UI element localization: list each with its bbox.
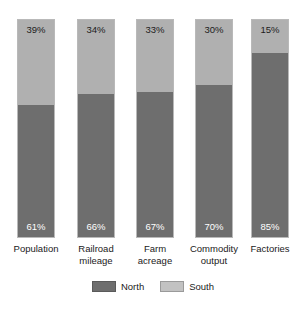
bar-value-label-south: 15% — [252, 24, 288, 35]
bar-value-label-north: 66% — [78, 221, 114, 232]
stacked-bar[interactable]: 39% 61% — [17, 19, 55, 238]
bar-segment-south[interactable]: 33% — [137, 20, 173, 92]
stacked-bar[interactable]: 34% 66% — [77, 19, 115, 238]
bar-value-label-north: 61% — [18, 221, 54, 232]
bar-segment-south[interactable]: 15% — [252, 20, 288, 53]
legend-item-south[interactable]: South — [160, 281, 214, 292]
bar-segment-south[interactable]: 39% — [18, 20, 54, 105]
bar-value-label-south: 39% — [18, 24, 54, 35]
bar-segment-south[interactable]: 30% — [196, 20, 232, 85]
stacked-bar-chart: 39% 61% 34% 66% 33% — [0, 0, 306, 311]
stacked-bar[interactable]: 15% 85% — [251, 19, 289, 238]
plot-area: 39% 61% 34% 66% 33% — [0, 19, 306, 238]
bar-segment-north[interactable]: 61% — [18, 105, 54, 237]
bar-group-commodity-output: 30% 70% — [195, 19, 233, 238]
bar-segment-north[interactable]: 66% — [78, 94, 114, 237]
bar-segment-north[interactable]: 67% — [137, 92, 173, 237]
bar-group-population: 39% 61% — [17, 19, 55, 238]
legend-item-north[interactable]: North — [92, 281, 144, 292]
category-line-1: Factories — [233, 243, 306, 255]
bar-group-railroad-mileage: 34% 66% — [77, 19, 115, 238]
bar-value-label-south: 33% — [137, 24, 173, 35]
bar-value-label-north: 70% — [196, 221, 232, 232]
bar-value-label-north: 85% — [252, 221, 288, 232]
chart-legend: North South — [0, 281, 306, 292]
bar-segment-north[interactable]: 85% — [252, 53, 288, 237]
stacked-bar[interactable]: 30% 70% — [195, 19, 233, 238]
bar-segment-north[interactable]: 70% — [196, 85, 232, 237]
legend-swatch-south-icon — [160, 281, 184, 292]
bar-value-label-south: 30% — [196, 24, 232, 35]
bar-value-label-south: 34% — [78, 24, 114, 35]
bar-group-factories: 15% 85% — [251, 19, 289, 238]
legend-swatch-north-icon — [92, 281, 116, 292]
stacked-bar[interactable]: 33% 67% — [136, 19, 174, 238]
bar-segment-south[interactable]: 34% — [78, 20, 114, 94]
legend-label-north: North — [121, 281, 144, 292]
legend-label-south: South — [189, 281, 214, 292]
x-axis-label-factories: Factories — [233, 243, 306, 255]
bar-value-label-north: 67% — [137, 221, 173, 232]
category-line-2: output — [177, 255, 251, 267]
bar-group-farm-acreage: 33% 67% — [136, 19, 174, 238]
